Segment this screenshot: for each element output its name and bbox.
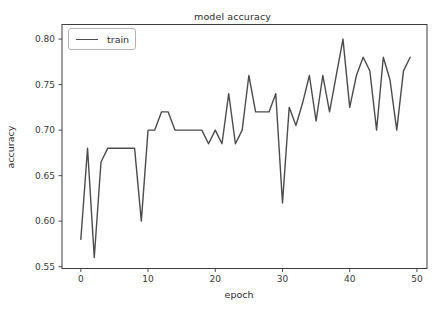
x-tick-label: 50 [411, 274, 423, 284]
y-tick-label: 0.75 [35, 80, 55, 90]
y-tick-label: 0.55 [35, 262, 55, 272]
y-tick-label: 0.80 [35, 34, 55, 44]
x-tick-label: 30 [277, 274, 289, 284]
x-tick-label: 0 [78, 274, 84, 284]
axes-frame [62, 25, 427, 269]
train-line [81, 39, 410, 258]
x-tick-label: 20 [210, 274, 222, 284]
x-tick-label: 10 [142, 274, 154, 284]
legend: train [68, 28, 136, 50]
accuracy-figure: model accuracy accuracy 010203040500.550… [0, 0, 446, 317]
y-tick-label: 0.60 [35, 216, 55, 226]
y-tick-label: 0.65 [35, 171, 55, 181]
x-axis-label: epoch [62, 289, 427, 300]
plot-area: 010203040500.550.600.650.700.750.80 [0, 0, 446, 317]
x-tick-label: 40 [344, 274, 356, 284]
y-tick-label: 0.70 [35, 125, 55, 135]
legend-label-train: train [107, 34, 129, 45]
train-line-swatch [76, 39, 98, 40]
